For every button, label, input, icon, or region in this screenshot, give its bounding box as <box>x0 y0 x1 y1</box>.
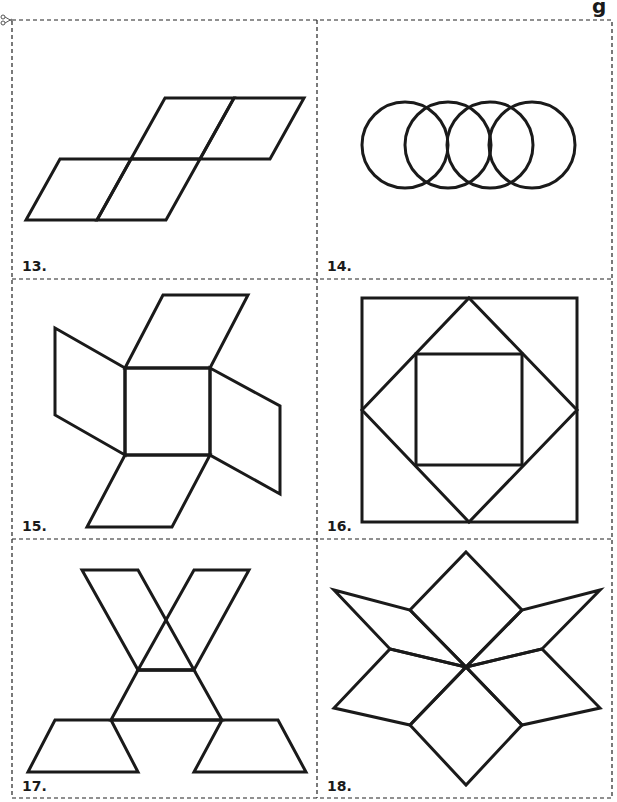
card-number-13: 13. <box>22 258 47 274</box>
figure-16-nested-squares <box>362 298 577 522</box>
card-number-17: 17. <box>22 778 47 794</box>
figure-14-circles <box>362 102 575 188</box>
scissors-icon <box>1 15 12 25</box>
figure-13-rhombi <box>26 98 304 220</box>
worksheet-page: g 13. 14. 15. 16. 17. 18. <box>0 0 617 802</box>
figure-15-pinwheel <box>55 295 280 527</box>
partial-header-glyph: g <box>592 0 606 18</box>
card-number-14: 14. <box>327 258 352 274</box>
card-number-18: 18. <box>327 778 352 794</box>
figure-17-x-shape <box>28 570 306 772</box>
figure-18-star <box>334 552 600 785</box>
card-number-16: 16. <box>327 518 352 534</box>
card-number-15: 15. <box>22 518 47 534</box>
